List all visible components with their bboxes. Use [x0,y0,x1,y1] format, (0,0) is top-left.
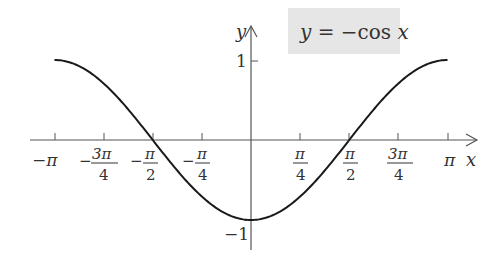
tick-label-neg-pi-4: − π 4 [182,145,210,184]
svg-text:2: 2 [346,166,356,184]
tick-label-neg-pi-2: − π 2 [130,145,158,184]
chart-canvas: y = −cos x y x 1 −1 −π − 3π 4 [0,0,502,261]
svg-text:3π: 3π [388,145,409,163]
x-axis-label: x [466,149,476,170]
y-axis-label: y [235,21,247,42]
svg-text:4: 4 [198,166,208,184]
svg-text:3π: 3π [92,145,113,163]
tick-label-neg-pi: −π [32,150,58,170]
tick-label-pi: π [443,150,456,170]
svg-text:π: π [196,145,208,163]
svg-text:2: 2 [146,166,156,184]
tick-label-pi-2: π 2 [343,145,358,184]
svg-text:4: 4 [394,166,404,184]
equation-label: y = −cos x [299,20,409,44]
tick-label-3pi-4: 3π 4 [387,145,413,184]
svg-text:−: − [130,152,143,170]
y-tick-label-1: 1 [236,51,247,71]
svg-text:π: π [294,145,306,163]
svg-text:4: 4 [99,166,109,184]
y-tick-label-neg1: −1 [224,224,249,244]
svg-text:π: π [144,145,156,163]
x-tick-labels: −π − 3π 4 − π 2 − π 4 π 4 [32,145,456,184]
tick-label-neg-3pi-4: − 3π 4 [79,145,118,184]
svg-text:−: − [182,152,195,170]
svg-text:4: 4 [296,166,306,184]
tick-label-pi-4: π 4 [293,145,308,184]
svg-text:−: − [79,152,92,170]
svg-text:π: π [344,145,356,163]
